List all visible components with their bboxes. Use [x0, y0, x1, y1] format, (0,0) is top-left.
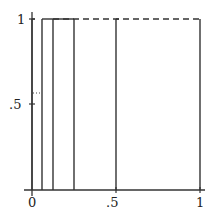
x-label-1: 1 — [196, 195, 204, 210]
y-label-half: .5 — [9, 97, 21, 112]
step-diagram: 1 .5 0 .5 1 — [0, 0, 214, 220]
x-label-half: .5 — [106, 195, 118, 210]
x-label-0: 0 — [28, 195, 36, 210]
y-label-1: 1 — [17, 12, 25, 27]
